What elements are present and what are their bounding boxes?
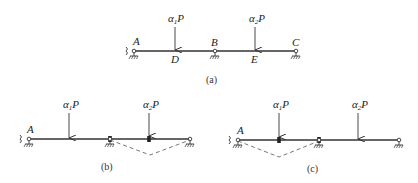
load-label-1: α1P: [168, 12, 184, 26]
deflected-shape-dashed: [110, 140, 190, 155]
diagram-c: α1P α2P A (c): [229, 98, 403, 175]
fixed-end-icon: [126, 47, 128, 55]
fixed-end-icon: [20, 135, 22, 143]
node-a-label: A: [26, 123, 34, 135]
load-label-2: α2P: [352, 98, 368, 112]
caption-a: (a): [206, 74, 217, 86]
hinge-load-icon: [147, 136, 151, 142]
deflected-shape-dashed: [238, 141, 319, 157]
diagram-a: α1P α2P A B C D E (a): [126, 12, 300, 86]
node-a-label: A: [236, 124, 244, 136]
node-b-label: B: [211, 36, 218, 48]
load-label-1: α1P: [63, 98, 79, 112]
node-d-label: D: [170, 53, 179, 65]
node-e-label: E: [250, 53, 258, 65]
load-label-2: α2P: [249, 12, 265, 26]
load-label-1: α1P: [273, 98, 289, 112]
node-a-label: A: [132, 35, 140, 47]
caption-b: (b): [101, 161, 113, 173]
node-c-label: C: [292, 36, 300, 48]
diagram-b: α1P α2P A (b): [20, 98, 194, 173]
load-label-2: α2P: [143, 98, 159, 112]
hinge-load-icon: [277, 137, 281, 143]
caption-c: (c): [307, 163, 318, 175]
beam-diagram-figure: α1P α2P A B C D E (a) α1P α2P A (b): [0, 0, 418, 183]
fixed-end-icon: [229, 136, 231, 144]
